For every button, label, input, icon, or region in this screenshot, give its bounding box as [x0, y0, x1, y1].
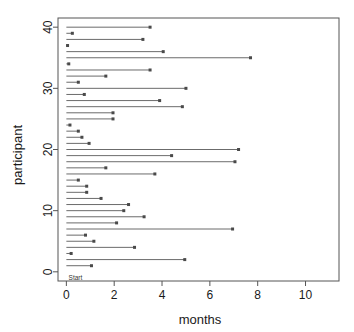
segment-end-point: [77, 130, 80, 133]
segment-end-point: [85, 191, 88, 194]
segment-end-point: [231, 228, 234, 231]
segment-end-point: [88, 142, 91, 145]
segment-end-point: [92, 240, 95, 243]
y-axis-ticks: 010203040: [41, 20, 58, 275]
y-tick-label: 0: [41, 268, 55, 275]
segment-end-point: [112, 117, 115, 120]
segment-end-point: [162, 50, 165, 53]
x-axis-label: months: [179, 312, 222, 327]
participant-segments: [66, 26, 252, 268]
segment-end-point: [184, 87, 187, 90]
segment-end-point: [84, 234, 87, 237]
x-tick-label: 8: [254, 288, 261, 302]
segment-end-point: [153, 172, 156, 175]
segment-end-point: [70, 252, 73, 255]
x-tick-label: 10: [299, 288, 313, 302]
segment-end-point: [83, 93, 86, 96]
segment-end-point: [127, 203, 130, 206]
x-tick-label: 2: [111, 288, 118, 302]
segment-end-point: [249, 56, 252, 59]
segment-plot: 0246810 010203040 Start months participa…: [0, 0, 354, 332]
segment-end-point: [143, 215, 146, 218]
chart-annotations: Start: [69, 274, 83, 281]
y-tick-label: 40: [41, 20, 55, 34]
segment-end-point: [67, 62, 70, 65]
y-tick-label: 30: [41, 81, 55, 95]
segment-end-point: [71, 32, 74, 35]
segment-end-point: [66, 44, 69, 47]
segment-end-point: [77, 81, 80, 84]
x-axis-ticks: 0246810: [63, 281, 312, 302]
segment-end-point: [112, 111, 115, 114]
segment-end-point: [104, 75, 107, 78]
segment-end-point: [149, 26, 152, 29]
segment-end-point: [90, 264, 93, 267]
segment-end-point: [237, 148, 240, 151]
start-annotation-label: Start: [69, 274, 83, 281]
segment-end-point: [233, 160, 236, 163]
x-tick-label: 0: [63, 288, 70, 302]
segment-end-point: [104, 166, 107, 169]
segment-end-point: [100, 197, 103, 200]
segment-end-point: [115, 221, 118, 224]
y-tick-label: 20: [41, 143, 55, 157]
segment-end-point: [149, 68, 152, 71]
segment-end-point: [170, 154, 173, 157]
segment-end-point: [68, 124, 71, 127]
x-tick-label: 4: [159, 288, 166, 302]
segment-end-point: [183, 258, 186, 261]
segment-end-point: [141, 38, 144, 41]
segment-end-point: [158, 99, 161, 102]
segment-end-point: [77, 179, 80, 182]
chart-figure: 0246810 010203040 Start months participa…: [0, 0, 354, 332]
segment-end-point: [80, 136, 83, 139]
x-tick-label: 6: [207, 288, 214, 302]
segment-end-point: [181, 105, 184, 108]
y-tick-label: 10: [41, 204, 55, 218]
segment-end-point: [122, 209, 125, 212]
y-axis-label: participant: [10, 125, 25, 185]
segment-end-point: [85, 185, 88, 188]
segment-end-point: [133, 246, 136, 249]
